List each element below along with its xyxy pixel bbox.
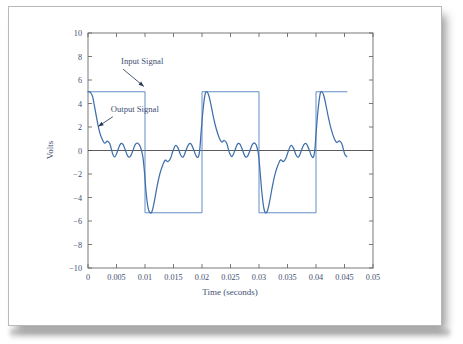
input-signal-annotation-label: Input Signal [121, 56, 164, 66]
x-tick-label: 0.04 [309, 273, 323, 282]
y-tick-label: −10 [69, 264, 82, 273]
x-axis-title: Time (seconds) [202, 287, 257, 297]
output-signal-annotation-label: Output Signal [111, 104, 160, 114]
x-tick-label: 0.035 [278, 273, 296, 282]
x-tick-label: 0.02 [195, 273, 209, 282]
x-tick-label: 0 [86, 273, 90, 282]
y-tick-label: −4 [73, 194, 82, 203]
x-axis-tick-labels: 00.0050.010.0150.020.0250.030.0350.040.0… [86, 273, 380, 282]
y-tick-label: 0 [78, 147, 82, 156]
paper-drop-shadow [10, 330, 450, 339]
y-tick-label: 10 [74, 29, 82, 38]
y-tick-label: 6 [78, 76, 82, 85]
annotation-group [98, 69, 144, 126]
x-tick-label: 0.045 [335, 273, 353, 282]
x-tick-label: 0.025 [221, 273, 239, 282]
y-tick-label: −6 [73, 217, 82, 226]
x-tick-label: 0.005 [107, 273, 125, 282]
y-tick-label: 2 [78, 123, 82, 132]
figure-paper: 00.0050.010.0150.020.0250.030.0350.040.0… [8, 6, 442, 326]
chart-figure: 00.0050.010.0150.020.0250.030.0350.040.0… [9, 7, 441, 325]
x-tick-label: 0.01 [138, 273, 152, 282]
y-axis-tick-labels: −10−8−6−4−20246810 [69, 29, 82, 273]
y-tick-label: −8 [73, 241, 82, 250]
y-tick-label: 4 [78, 100, 82, 109]
x-tick-label: 0.015 [164, 273, 182, 282]
annotation-arrowhead [98, 122, 103, 127]
y-axis-title: Volts [45, 140, 55, 159]
y-tick-label: −2 [73, 170, 82, 179]
x-tick-label: 0.05 [366, 273, 380, 282]
signal-plot: 00.0050.010.0150.020.0250.030.0350.040.0… [9, 7, 441, 325]
y-tick-label: 8 [78, 53, 82, 62]
x-tick-label: 0.03 [252, 273, 266, 282]
